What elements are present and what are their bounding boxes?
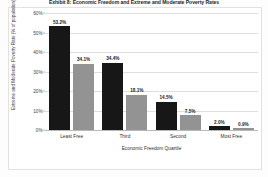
y-tick-mark: [43, 71, 45, 72]
y-axis-title: Extreme and Moderate Poverty Rate (% of …: [11, 0, 17, 115]
bar-value-label: 14.5%: [159, 95, 172, 100]
y-tick-mark: [43, 52, 45, 53]
bar-group: 2.0%0.9%: [209, 13, 254, 130]
x-tick-label: Third: [119, 134, 130, 139]
bar[interactable]: 2.0%: [209, 126, 230, 130]
bar-value-label: 7.5%: [185, 109, 196, 114]
y-tick-label: 50%: [33, 30, 42, 35]
y-tick-label: 0%: [36, 128, 43, 133]
bar[interactable]: 7.5%: [180, 115, 201, 130]
y-tick-label: 20%: [33, 89, 42, 94]
y-tick-label: 40%: [33, 50, 42, 55]
y-tick-label: 30%: [33, 69, 42, 74]
y-tick-mark: [43, 13, 45, 14]
bar-value-label: 53.2%: [53, 20, 66, 25]
bar-value-label: 18.1%: [130, 88, 143, 93]
y-tick-mark: [43, 91, 45, 92]
bar[interactable]: 34.1%: [73, 64, 94, 130]
x-axis-line: [45, 130, 258, 131]
y-tick-label: 60%: [33, 11, 42, 16]
bar-value-label: 2.0%: [214, 120, 225, 125]
bar-value-label: 34.1%: [77, 57, 90, 62]
bar-group: 14.5%7.5%: [156, 13, 201, 130]
y-tick-mark: [43, 110, 45, 111]
chart-title: Exhibit 8: Economic Freedom and Extreme …: [0, 0, 268, 5]
bar[interactable]: 14.5%: [156, 102, 177, 130]
bar[interactable]: 53.2%: [49, 26, 70, 130]
x-axis-title: Economic Freedom Quartile: [45, 146, 258, 151]
x-tick-label: Least Free: [60, 134, 83, 139]
x-tick-label: Second: [170, 134, 186, 139]
plot-area: 0%10%20%30%40%50%60%53.2%34.1%34.4%18.1%…: [45, 13, 258, 131]
bar-group: 34.4%18.1%: [102, 13, 147, 130]
y-tick-mark: [43, 32, 45, 33]
bar-value-label: 34.4%: [106, 56, 119, 61]
bar-value-label: 0.9%: [238, 122, 249, 127]
bar[interactable]: 0.9%: [233, 128, 254, 130]
bar[interactable]: 34.4%: [102, 63, 123, 130]
bar[interactable]: 18.1%: [126, 95, 147, 130]
x-tick-label: Most Free: [221, 134, 243, 139]
y-tick-label: 10%: [33, 108, 42, 113]
chart-container: Exhibit 8: Economic Freedom and Extreme …: [0, 0, 268, 177]
bar-group: 53.2%34.1%: [49, 13, 94, 130]
